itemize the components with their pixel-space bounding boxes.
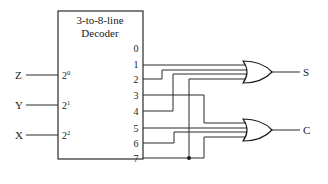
output-label-3: 3 <box>134 90 139 101</box>
input-weight-x: 22 <box>62 129 70 141</box>
input-label-x: X <box>15 129 23 141</box>
output-label-5: 5 <box>134 123 139 134</box>
output-label-6: 6 <box>134 138 139 149</box>
output-label-0: 0 <box>134 43 139 54</box>
junction-dot <box>187 156 191 160</box>
decoder-title-line2: Decoder <box>81 27 119 39</box>
or-gate-c: C <box>243 119 310 141</box>
output-label-c: C <box>303 124 310 136</box>
or-gate-s: S <box>243 61 309 83</box>
output-label-7: 7 <box>134 153 139 164</box>
wires-s <box>143 65 248 158</box>
input-z: Z 20 <box>15 69 70 81</box>
input-weight-z: 20 <box>62 69 70 81</box>
output-label-4: 4 <box>134 106 139 117</box>
decoder-title-line1: 3-to-8-line <box>76 14 123 26</box>
wires-c <box>143 95 248 158</box>
input-label-z: Z <box>15 69 22 81</box>
output-label-2: 2 <box>134 74 139 85</box>
input-weight-y: 21 <box>62 99 70 111</box>
output-label-s: S <box>303 66 309 78</box>
input-label-y: Y <box>15 99 23 111</box>
input-y: Y 21 <box>15 99 70 111</box>
input-x: X 22 <box>15 129 70 141</box>
circuit-diagram: 3-to-8-line Decoder Z 20 Y 21 X 22 0 1 2… <box>0 0 328 184</box>
output-label-1: 1 <box>134 59 139 70</box>
